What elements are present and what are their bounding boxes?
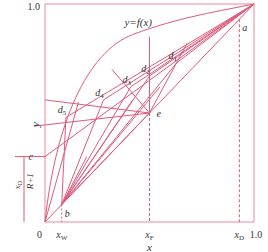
origin-label: 0 bbox=[37, 229, 42, 240]
fan-line-3 bbox=[62, 157, 87, 205]
intercept-fraction-num: xD bbox=[12, 180, 23, 190]
fan-line-1 bbox=[62, 113, 150, 205]
x-tick-xW: xW bbox=[55, 229, 67, 242]
strip-line-d3 bbox=[62, 87, 131, 205]
point-d2-label: d2 bbox=[141, 63, 150, 76]
curve-label: y=f(x) bbox=[123, 16, 152, 29]
y-axis-label: y bbox=[29, 122, 41, 128]
x-axis-label: x bbox=[146, 241, 152, 252]
point-a-label: a bbox=[242, 22, 247, 33]
fan-line-0 bbox=[62, 87, 160, 205]
rect-line-d5 bbox=[66, 4, 254, 117]
point-b-label: b bbox=[65, 208, 70, 219]
point-d3-label: d3 bbox=[122, 74, 131, 87]
xy-diagram: 1.0y0xWxFxD1.0xy=f(x)cabed1d2d3d4d5xDR+1 bbox=[0, 0, 268, 252]
x-end-label: 1.0 bbox=[250, 229, 263, 240]
x-tick-xD: xD bbox=[234, 229, 245, 242]
rect-line-d1 bbox=[177, 4, 254, 63]
point-d5-label: d5 bbox=[58, 104, 67, 117]
point-c-label: c bbox=[29, 151, 34, 162]
y-top-label: 1.0 bbox=[28, 1, 41, 12]
intercept-fraction-den: R+1 bbox=[25, 173, 35, 190]
point-e-label: e bbox=[157, 108, 162, 119]
point-d4-label: d4 bbox=[95, 87, 104, 100]
